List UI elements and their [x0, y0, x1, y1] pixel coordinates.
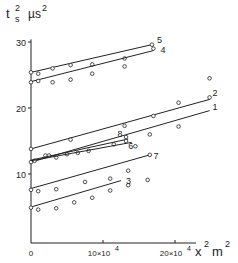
data-point [29, 80, 33, 84]
x-axis-label-sup: 2 [204, 239, 209, 249]
x-tick-exponent: 4 [187, 245, 191, 252]
data-point [148, 133, 152, 137]
fit-line [31, 99, 210, 149]
data-point [29, 147, 33, 151]
fit-line [31, 155, 150, 189]
series-3 [29, 178, 149, 211]
data-point [152, 47, 156, 51]
data-point [108, 177, 112, 181]
y-tick-label: 10 [16, 170, 26, 180]
data-point [148, 153, 152, 157]
data-point [123, 124, 127, 128]
data-point [146, 178, 150, 182]
data-point [72, 201, 76, 205]
data-point [29, 188, 33, 192]
x-axis-label-x: x [195, 244, 202, 259]
data-point [51, 80, 55, 84]
data-point [36, 208, 40, 212]
x-tick-label: 10×10 [88, 249, 111, 258]
x-axis-label-unit-sup: 2 [225, 239, 230, 249]
data-point [29, 206, 33, 210]
labels-layer: 54218673 [117, 35, 217, 186]
data-point [124, 135, 128, 139]
series-7 [29, 153, 151, 193]
data-point [123, 65, 127, 69]
x-tick-exponent: 4 [115, 245, 119, 252]
series-label-6: 6 [128, 141, 133, 151]
series-layer [29, 43, 211, 212]
series-label-4: 4 [161, 45, 166, 55]
x-axis-label-unit: m [212, 244, 223, 259]
series-label-2: 2 [212, 88, 217, 98]
series-label-5: 5 [157, 35, 162, 45]
data-point [90, 196, 94, 200]
y-axis-label-unit-sup: 2 [42, 3, 47, 13]
data-point [152, 114, 156, 118]
data-point [126, 169, 130, 173]
x-tick-label: 0 [29, 249, 34, 258]
data-point [90, 72, 94, 76]
y-axis-label-sub: s [15, 14, 20, 24]
data-point [69, 138, 73, 142]
fit-line [31, 139, 128, 160]
data-point [108, 189, 112, 193]
y-tick-label: 20 [16, 104, 26, 114]
data-point [36, 72, 40, 76]
data-point [177, 125, 181, 129]
data-point [29, 71, 33, 75]
series-label-8: 8 [117, 129, 122, 139]
series-5 [29, 43, 154, 76]
series-label-7: 7 [153, 151, 158, 161]
data-point [208, 77, 212, 81]
data-point [51, 67, 55, 71]
data-point [54, 187, 58, 191]
fit-line [31, 51, 153, 82]
data-point [150, 43, 154, 47]
data-point [177, 101, 181, 105]
fit-line [31, 45, 152, 73]
series-2 [29, 77, 211, 151]
series-label-1: 1 [212, 102, 217, 112]
data-point [208, 96, 212, 100]
x-tick-label: 20×10 [160, 249, 183, 258]
data-point [36, 189, 40, 193]
series-6 [31, 142, 137, 160]
data-point [83, 180, 87, 184]
data-point [134, 144, 138, 148]
y-tick-label: 30 [16, 38, 26, 48]
y-axis-label-t: t [6, 6, 10, 21]
chart: 102030010×10420×104ts2µs2x2m2 54218673 [0, 0, 238, 263]
data-point [36, 79, 40, 83]
y-axis-label-sup: 2 [15, 3, 20, 13]
y-axis-label-unit: µs [28, 7, 41, 21]
data-point [69, 63, 73, 67]
data-point [54, 207, 58, 211]
data-point [69, 78, 73, 82]
series-label-3: 3 [126, 176, 131, 186]
